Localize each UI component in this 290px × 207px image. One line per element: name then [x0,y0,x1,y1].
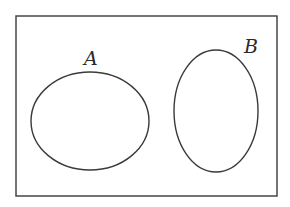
venn-svg: A B [0,0,290,207]
set-b-ellipse [174,50,258,172]
set-b-label: B [243,35,258,57]
set-a-label: A [82,47,98,69]
set-a-ellipse [31,72,149,170]
venn-diagram: A B [0,0,290,207]
